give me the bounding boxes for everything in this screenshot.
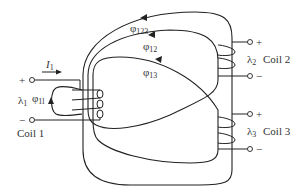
- coupled-coils-diagram: I1 + − λ1 φ1l Coil 1 + − λ2 Coil 2 + − λ…: [0, 0, 303, 194]
- coil-2-plus-label: +: [256, 36, 262, 48]
- phi123-label: φ123: [130, 22, 148, 36]
- coil-2-name: Coil 2: [263, 53, 290, 65]
- coil-3-minus-label: −: [256, 143, 262, 155]
- arrow-phi13: [155, 56, 162, 63]
- arrow-phi1l: [48, 97, 54, 104]
- coil-1-minus-label: −: [19, 114, 25, 126]
- coil-3-minus-terminal[interactable]: [248, 147, 253, 152]
- phi12-label: φ12: [143, 40, 157, 54]
- coil-2-minus-label: −: [256, 70, 262, 82]
- coil-1-name: Coil 1: [17, 127, 44, 139]
- coil-3-plus-label: +: [256, 108, 262, 120]
- coil-1-plus-label: +: [19, 74, 25, 86]
- arrow-phi123: [140, 14, 147, 21]
- coil-3-lambda-label: λ3: [247, 125, 256, 139]
- phi1l-label: φ1l: [32, 92, 45, 106]
- phi13-label: φ13: [143, 66, 157, 80]
- coil-3-winding: [218, 114, 250, 149]
- flux-path-phi1l: [52, 87, 83, 116]
- coil-2-plus-terminal[interactable]: [248, 40, 253, 45]
- coil-2-minus-terminal[interactable]: [248, 74, 253, 79]
- coil-2-lambda-label: λ2: [247, 53, 256, 67]
- current-arrowhead: [56, 70, 62, 75]
- coil-1-plus-terminal[interactable]: [30, 78, 35, 83]
- coil-3-plus-terminal[interactable]: [248, 112, 253, 117]
- current-label: I1: [45, 58, 54, 72]
- coil-1-lambda-label: λ1: [18, 94, 27, 108]
- coil-2-winding: [218, 42, 250, 76]
- coil-3-name: Coil 3: [263, 125, 291, 137]
- coil-1-minus-terminal[interactable]: [30, 118, 35, 123]
